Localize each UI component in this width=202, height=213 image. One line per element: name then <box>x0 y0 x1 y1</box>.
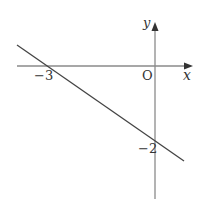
x-axis-label: x <box>183 67 191 83</box>
y-intercept-label: −2 <box>138 141 157 156</box>
x-intercept-label: −3 <box>34 68 53 83</box>
y-axis-arrow-icon <box>152 22 159 31</box>
graph-line <box>17 45 184 161</box>
y-axis-label: y <box>142 15 151 30</box>
coordinate-diagram: y x O −3 −2 <box>0 0 202 213</box>
origin-label: O <box>142 68 153 83</box>
